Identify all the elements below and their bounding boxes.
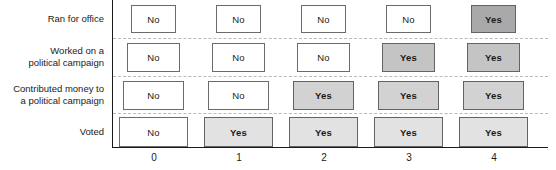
row-label-line: Voted [80,126,104,137]
cell-voted-1: Yes [204,117,273,147]
cell-worked-campaign-2: No [297,43,350,72]
row-divider [113,38,548,39]
cell-worked-campaign-4: Yes [467,43,520,72]
cell-contributed-money-4: Yes [463,81,524,110]
x-axis-tick-labels: 0 1 2 3 4 [112,149,548,170]
cell-ran-for-office-1: No [216,5,261,33]
cell-ran-for-office-4: Yes [471,5,516,33]
cell-contributed-money-0: No [123,81,184,110]
row-label-column: Ran for office Worked on a political cam… [0,0,108,148]
row-label-line: a political campaign [21,95,104,106]
cell-ran-for-office-2: No [301,5,346,33]
x-tick-1: 1 [236,152,242,163]
row-divider [113,76,548,77]
row-label-ran-for-office: Ran for office [0,13,104,25]
x-axis-line [112,147,548,148]
cell-worked-campaign-3: Yes [382,43,435,72]
cell-worked-campaign-0: No [127,43,180,72]
row-label-line: Worked on a [50,45,104,56]
cell-contributed-money-3: Yes [378,81,439,110]
cell-ran-for-office-0: No [131,5,176,33]
row-label-line: Ran for office [48,13,104,24]
x-tick-2: 2 [321,152,327,163]
cell-voted-2: Yes [289,117,358,147]
row-label-line: Contributed money to [13,83,104,94]
row-label-contributed-money: Contributed money to a political campaig… [0,83,104,106]
cell-contributed-money-1: No [208,81,269,110]
row-label-voted: Voted [0,126,104,138]
guttman-scalogram-chart: Ran for office Worked on a political cam… [0,0,556,170]
y-axis-line [112,0,113,148]
cell-voted-0: No [119,117,188,147]
cell-ran-for-office-3: No [386,5,431,33]
row-divider [113,113,548,114]
cell-contributed-money-2: Yes [293,81,354,110]
x-tick-4: 4 [491,152,497,163]
cell-worked-campaign-1: No [212,43,265,72]
row-label-worked-on-campaign: Worked on a political campaign [0,45,104,68]
cell-voted-3: Yes [374,117,443,147]
row-label-line: political campaign [28,57,104,68]
x-tick-0: 0 [151,152,157,163]
plot-area: No No No No Yes No No No Yes Yes No No Y… [112,0,548,148]
cell-voted-4: Yes [459,117,528,147]
x-tick-3: 3 [406,152,412,163]
